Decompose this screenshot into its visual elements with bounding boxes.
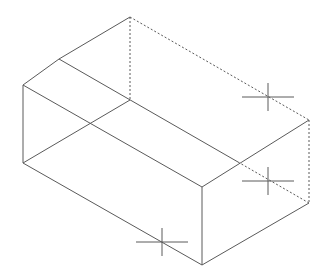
front-top-edge — [23, 85, 202, 187]
crosshair-markers — [136, 83, 294, 256]
isometric-box-diagram — [0, 0, 328, 267]
top-left-edge-b — [59, 17, 130, 59]
ridge-edge — [59, 59, 238, 162]
hidden-edges — [130, 17, 309, 203]
bottom-left-back-edge — [23, 100, 130, 163]
right-bottom-edge — [202, 203, 309, 265]
top-left-edge-a — [23, 59, 59, 85]
ridge-hidden-edge — [238, 162, 309, 203]
back-top-edge — [130, 17, 309, 120]
drawing-canvas — [0, 0, 328, 267]
visible-edges — [23, 17, 309, 265]
front-bottom-edge — [23, 163, 202, 265]
right-top-edge — [202, 120, 309, 187]
crosshair-right-icon — [242, 167, 294, 195]
